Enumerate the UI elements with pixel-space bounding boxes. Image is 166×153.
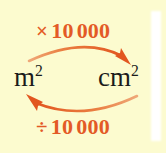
multiply-value-tail: 000 — [77, 18, 111, 43]
multiply-sign: × — [36, 19, 48, 43]
unit-right-base: cm — [98, 62, 131, 92]
divide-label: ÷10000 — [36, 116, 110, 138]
divide-sign: ÷ — [36, 115, 48, 139]
unit-conversion-diagram: ×10000 m2 cm2 ÷10000 — [0, 0, 166, 153]
divide-value: 10 — [51, 114, 73, 139]
unit-left-exponent: 2 — [35, 62, 43, 79]
bottom-arrow-icon — [26, 94, 137, 111]
unit-right-exponent: 2 — [131, 62, 139, 79]
unit-left-base: m — [14, 62, 35, 92]
unit-right-cm2: cm2 — [98, 64, 139, 91]
unit-left-m2: m2 — [14, 64, 43, 91]
multiply-label: ×10000 — [36, 20, 110, 42]
divide-value-tail: 000 — [76, 114, 110, 139]
multiply-value: 10 — [51, 18, 73, 43]
